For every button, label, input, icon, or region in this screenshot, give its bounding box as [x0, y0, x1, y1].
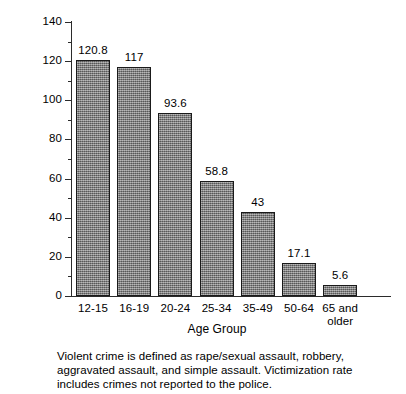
y-tick-minor	[68, 159, 72, 160]
y-tick-major	[65, 61, 72, 62]
footnote-text: Violent crime is defined as rape/sexual …	[57, 349, 387, 392]
bar-value-label: 43	[231, 197, 285, 209]
bar-value-label: 58.8	[190, 166, 244, 178]
x-axis-line	[71, 296, 391, 297]
y-tick-major	[65, 139, 72, 140]
bar	[76, 60, 110, 296]
y-tick-major	[65, 218, 72, 219]
y-tick-minor	[68, 276, 72, 277]
y-tick-minor	[68, 81, 72, 82]
y-tick-label: 120	[43, 55, 63, 67]
y-tick-major	[65, 179, 72, 180]
y-tick-minor	[68, 120, 72, 121]
bar	[241, 212, 275, 296]
y-tick-label: 100	[43, 94, 63, 106]
y-tick-minor	[68, 198, 72, 199]
bar-value-label: 93.6	[148, 98, 202, 110]
y-tick-minor	[68, 237, 72, 238]
bar	[200, 181, 234, 296]
y-tick-label: 60	[49, 173, 62, 185]
bar	[117, 67, 151, 296]
y-tick-major	[65, 296, 72, 297]
y-tick-major	[65, 100, 72, 101]
bar-value-label: 17.1	[272, 248, 326, 260]
y-tick-label: 20	[49, 251, 62, 263]
x-axis-title: Age Group	[72, 323, 362, 336]
bar	[158, 113, 192, 296]
y-tick-major	[65, 257, 72, 258]
y-tick-minor	[68, 42, 72, 43]
bar-value-label: 117	[107, 52, 161, 64]
y-tick-label: 40	[49, 212, 62, 224]
y-tick-label: 0	[56, 290, 63, 302]
y-tick-major	[65, 22, 72, 23]
y-tick-label: 140	[43, 16, 63, 28]
bar	[323, 285, 357, 296]
y-tick-label: 80	[49, 133, 62, 145]
bar-chart-figure: Victimizations per 1,000 020406080100120…	[0, 0, 406, 394]
bar	[282, 263, 316, 296]
bar-value-label: 5.6	[313, 270, 367, 282]
